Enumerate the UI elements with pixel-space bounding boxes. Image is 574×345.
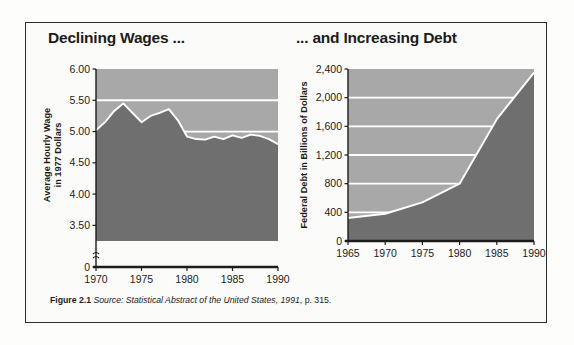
y-tick-label: 4.50: [70, 156, 91, 168]
left-chart-title: Declining Wages ...: [48, 29, 185, 47]
y-tick-label: 0: [84, 261, 90, 273]
figure-frame: Declining Wages ... ... and Increasing D…: [25, 22, 547, 323]
y-tick-label: 1,200: [316, 149, 342, 161]
caption-page: , p. 315.: [300, 295, 331, 305]
y-tick-label: 6.00: [70, 63, 91, 75]
x-tick-label: 1965: [336, 247, 360, 259]
right-chart-title: ... and Increasing Debt: [296, 29, 457, 47]
y-tick-label: 5.50: [70, 94, 91, 106]
x-axis-ticks: 196519701975198019851990: [336, 241, 546, 259]
caption-figure-number: Figure 2.1: [50, 295, 91, 305]
declining-wages-svg: 03.504.004.505.005.506.00197019751980198…: [34, 63, 292, 283]
y-tick-label: 1,600: [316, 120, 342, 132]
x-tick-label: 1980: [175, 273, 199, 284]
figure-caption: Figure 2.1 Source: Statistical Abstract …: [50, 295, 530, 306]
y-axis-title: Average Hourly Wagein 1977 Dollars: [42, 108, 63, 202]
y-tick-label: 800: [324, 177, 342, 189]
y-axis-ticks: 04008001,2001,6002,0002,400: [316, 63, 348, 247]
y-tick-label: 3.50: [70, 219, 91, 231]
y-tick-label: 0: [336, 235, 342, 247]
y-tick-label: 4.00: [70, 188, 91, 200]
x-tick-label: 1985: [485, 247, 509, 259]
caption-source: Source: Statistical Abstract of the Unit…: [93, 295, 299, 305]
x-axis-ticks: 19701975198019851990: [84, 267, 290, 283]
y-axis-title-text: Federal Debt in Billions of Dollars: [299, 81, 309, 228]
y-tick-label: 2,400: [316, 63, 342, 75]
increasing-debt-svg: 04008001,2001,6002,0002,4001965197019751…: [290, 63, 546, 283]
y-axis-ticks: 03.504.004.505.005.506.00: [70, 63, 96, 273]
y-tick-label: 5.00: [70, 125, 91, 137]
right-chart-panel: 04008001,2001,6002,0002,4001965197019751…: [290, 63, 546, 283]
x-tick-label: 1985: [221, 273, 245, 284]
y-axis-title-line2: in 1977 Dollars: [53, 123, 63, 188]
y-axis-title: Federal Debt in Billions of Dollars: [299, 81, 309, 228]
left-chart-panel: 03.504.004.505.005.506.00197019751980198…: [34, 63, 292, 283]
y-tick-label: 2,000: [316, 91, 342, 103]
x-tick-label: 1990: [266, 273, 290, 284]
x-tick-label: 1975: [411, 247, 435, 259]
chart-titles: Declining Wages ... ... and Increasing D…: [26, 29, 548, 63]
charts-container: 03.504.004.505.005.506.00197019751980198…: [26, 63, 548, 283]
x-tick-label: 1975: [130, 273, 154, 284]
x-tick-label: 1990: [522, 247, 546, 259]
y-axis-title-line1: Average Hourly Wage: [42, 108, 52, 202]
x-tick-label: 1980: [448, 247, 472, 259]
x-tick-label: 1970: [374, 247, 398, 259]
x-tick-label: 1970: [84, 273, 108, 284]
y-tick-label: 400: [324, 206, 342, 218]
